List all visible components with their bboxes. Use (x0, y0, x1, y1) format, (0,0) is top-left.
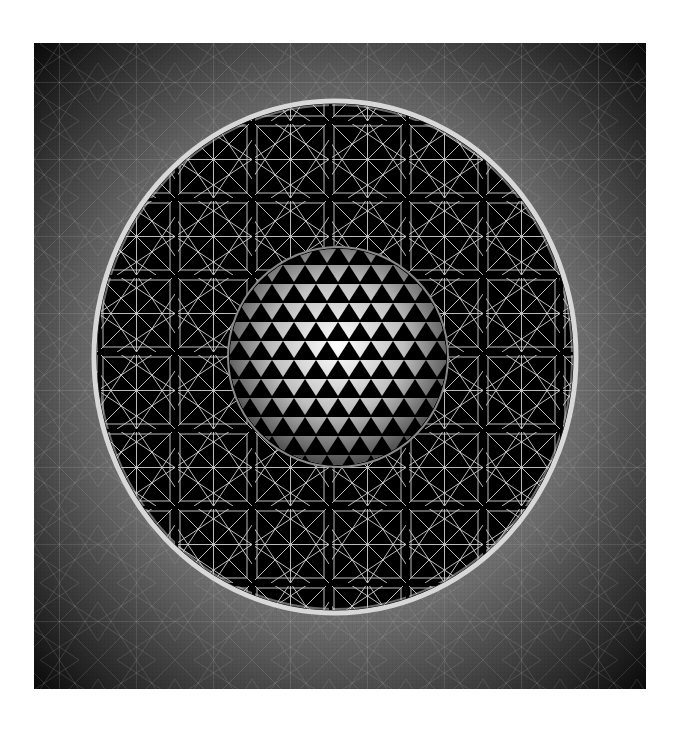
geometric-artwork (0, 0, 682, 742)
triangle-sphere (228, 247, 448, 467)
